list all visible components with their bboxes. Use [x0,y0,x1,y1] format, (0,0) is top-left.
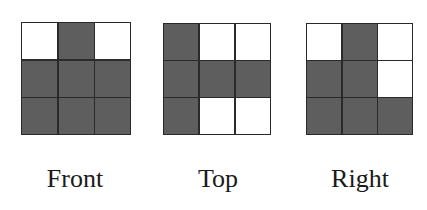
empty-cell-r2-c1 [200,98,234,134]
filled-cell-r1-c1 [59,61,94,97]
filled-cell-r1-c0 [164,61,198,97]
empty-cell-r0-c1 [200,24,234,60]
filled-cell-r1-c1 [343,61,377,97]
filled-cell-r0-c0 [164,24,198,60]
empty-cell-r2-c2 [236,98,270,134]
right-view-grid [306,23,413,135]
empty-cell-r0-c0 [22,23,57,59]
filled-cell-r0-c1 [343,24,377,60]
top-view-grid [163,23,271,135]
front-view-label: Front [47,166,103,192]
filled-cell-r2-c0 [164,98,198,134]
empty-cell-r1-c2 [378,61,412,97]
filled-cell-r0-c1 [59,23,94,59]
right-view-label: Right [331,166,389,192]
filled-cell-r2-c0 [22,98,57,134]
filled-cell-r1-c1 [200,61,234,97]
empty-cell-r0-c2 [378,24,412,60]
filled-cell-r1-c0 [22,61,57,97]
empty-cell-r0-c0 [307,24,341,60]
empty-cell-r0-c2 [95,23,130,59]
filled-cell-r2-c2 [378,98,412,134]
filled-cell-r2-c2 [95,98,130,134]
filled-cell-r1-c0 [307,61,341,97]
filled-cell-r2-c1 [343,98,377,134]
filled-cell-r2-c1 [59,98,94,134]
filled-cell-r1-c2 [236,61,270,97]
filled-cell-r1-c2 [95,61,130,97]
empty-cell-r0-c2 [236,24,270,60]
filled-cell-r2-c0 [307,98,341,134]
top-view-label: Top [198,166,238,192]
front-view-grid [21,22,131,135]
